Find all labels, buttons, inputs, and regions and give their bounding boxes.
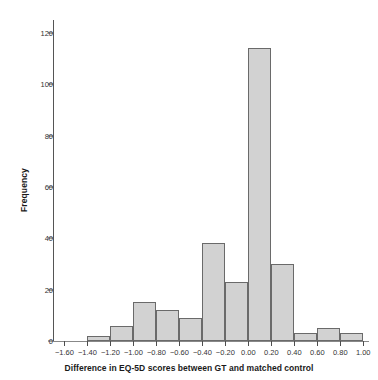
x-tick-mark (225, 341, 226, 346)
y-tick-label: 60 (13, 182, 53, 191)
x-tick-mark (248, 341, 249, 346)
histogram-bar (225, 282, 248, 341)
histogram-bar (156, 310, 179, 341)
x-tick-label: 1.00 (343, 348, 378, 357)
histogram-bar (271, 264, 294, 341)
x-tick-mark (294, 341, 295, 346)
x-axis-title: Difference in EQ-5D scores between GT an… (0, 363, 378, 373)
histogram-bar (87, 336, 110, 341)
histogram-bar (340, 333, 363, 341)
x-axis-line (53, 341, 369, 342)
x-tick-mark (110, 341, 111, 346)
histogram-bar (133, 302, 156, 341)
x-tick-mark (202, 341, 203, 346)
x-tick-mark (156, 341, 157, 346)
x-tick-mark (64, 341, 65, 346)
x-tick-mark (87, 341, 88, 346)
x-tick-mark (340, 341, 341, 346)
histogram-bar (179, 318, 202, 341)
x-tick-mark (179, 341, 180, 346)
x-tick-mark (317, 341, 318, 346)
histogram-bar (110, 326, 133, 341)
histogram-figure: Frequency 020406080100120 −1.60−1.40−1.2… (0, 0, 378, 380)
y-tick-label: 80 (13, 131, 53, 140)
x-tick-mark (133, 341, 134, 346)
y-tick-label: 100 (13, 80, 53, 89)
histogram-bar (248, 48, 271, 341)
histogram-bar (202, 243, 225, 341)
histogram-bar (317, 328, 340, 341)
x-tick-mark (271, 341, 272, 346)
y-tick-label: 0 (13, 337, 53, 346)
y-tick-label: 20 (13, 285, 53, 294)
histogram-bar (294, 333, 317, 341)
x-tick-mark (363, 341, 364, 346)
plot-area (53, 20, 369, 341)
y-tick-label: 120 (13, 28, 53, 37)
y-tick-label: 40 (13, 234, 53, 243)
